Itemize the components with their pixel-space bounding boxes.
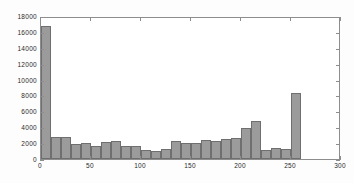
- x-axis-tick-mark-top: [140, 17, 141, 21]
- y-axis-tick-mark: [40, 65, 44, 66]
- y-axis-tick-mark-right: [336, 65, 340, 66]
- histogram-bar: [171, 141, 181, 159]
- histogram-figure: 0200040006000800010000120001400016000180…: [0, 0, 354, 183]
- x-axis-tick-mark: [240, 156, 241, 160]
- histogram-bar: [141, 150, 151, 159]
- y-axis-tick-label: 14000: [17, 46, 37, 53]
- y-axis-tick-mark: [40, 96, 44, 97]
- x-axis-tick-mark: [140, 156, 141, 160]
- histogram-bar: [111, 141, 121, 159]
- y-axis-tick-mark-right: [336, 128, 340, 129]
- y-axis-tick-mark-right: [336, 33, 340, 34]
- histogram-bar: [261, 150, 271, 159]
- x-axis-tick-mark-top: [90, 17, 91, 21]
- y-axis-tick-mark: [40, 112, 44, 113]
- x-axis-tick-mark: [190, 156, 191, 160]
- histogram-bar: [291, 93, 301, 159]
- y-axis-tick-mark-right: [336, 96, 340, 97]
- y-axis-tick-mark: [40, 160, 44, 161]
- x-axis-tick-mark-top: [190, 17, 191, 21]
- y-axis-tick-label: 4000: [21, 125, 37, 132]
- histogram-bar: [61, 137, 71, 159]
- x-axis-tick-mark: [290, 156, 291, 160]
- y-axis-tick-label: 8000: [21, 93, 37, 100]
- histogram-bar: [91, 146, 101, 159]
- x-axis-tick-mark-top: [340, 17, 341, 21]
- histogram-bar: [191, 143, 201, 159]
- x-axis-tick-label: 250: [284, 163, 296, 170]
- y-axis-tick-mark: [40, 144, 44, 145]
- histogram-bar: [201, 140, 211, 159]
- histogram-bar: [221, 139, 231, 159]
- histogram-bar: [41, 26, 51, 159]
- x-axis-tick-mark: [90, 156, 91, 160]
- plot-area: [40, 17, 340, 160]
- y-axis-tick-label: 10000: [17, 77, 37, 84]
- y-axis-tick-label: 12000: [17, 61, 37, 68]
- y-axis-tick-label: 16000: [17, 30, 37, 37]
- x-axis-tick-label: 100: [134, 163, 146, 170]
- histogram-bar: [271, 148, 281, 159]
- histogram-bar: [71, 144, 81, 159]
- y-axis-tick-mark-right: [336, 81, 340, 82]
- y-axis-tick-mark: [40, 33, 44, 34]
- y-axis-tick-mark-right: [336, 112, 340, 113]
- x-axis-tick-mark: [40, 156, 41, 160]
- x-axis-tick-label: 50: [86, 163, 94, 170]
- histogram-bar: [241, 128, 251, 159]
- x-axis-tick-mark-top: [240, 17, 241, 21]
- y-axis-labels: 0200040006000800010000120001400016000180…: [0, 0, 37, 183]
- y-axis-tick-label: 18000: [17, 14, 37, 21]
- y-axis-tick-mark: [40, 81, 44, 82]
- x-axis-tick-mark: [340, 156, 341, 160]
- x-axis-tick-mark-top: [40, 17, 41, 21]
- y-axis-tick-mark: [40, 128, 44, 129]
- histogram-bar: [211, 141, 221, 159]
- y-axis-tick-label: 2000: [21, 141, 37, 148]
- y-axis-tick-mark-right: [336, 144, 340, 145]
- histogram-bar: [151, 151, 161, 159]
- x-axis-tick-label: 200: [234, 163, 246, 170]
- histogram-bar: [121, 146, 131, 160]
- histogram-bar: [101, 142, 111, 159]
- y-axis-tick-mark: [40, 49, 44, 50]
- bar-series: [41, 18, 339, 159]
- y-axis-tick-label: 0: [33, 157, 37, 164]
- x-axis-tick-label: 150: [184, 163, 196, 170]
- y-axis-tick-label: 6000: [21, 109, 37, 116]
- x-axis-tick-mark-top: [290, 17, 291, 21]
- x-axis-tick-label: 0: [38, 163, 42, 170]
- histogram-bar: [51, 137, 61, 159]
- histogram-bar: [251, 121, 261, 159]
- histogram-bar: [161, 149, 171, 159]
- x-axis-tick-label: 300: [334, 163, 346, 170]
- y-axis-tick-mark-right: [336, 49, 340, 50]
- y-axis-tick-mark-right: [336, 160, 340, 161]
